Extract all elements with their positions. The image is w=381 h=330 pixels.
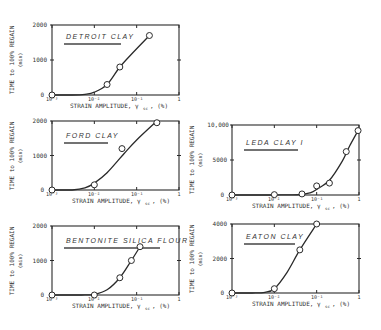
y-tick-label: 2000 (33, 117, 48, 124)
chart-title: EATON CLAY (246, 233, 304, 240)
data-point-marker (117, 64, 123, 70)
chart-title: LEDA CLAY I (246, 139, 304, 146)
svg-text:sc: sc (325, 304, 330, 309)
chart-title: BENTONITE SILICA FLOUR (66, 237, 188, 244)
y-tick-label: 2000 (213, 255, 228, 262)
y-axis-label: TIME to 100% REGAIN (min) (8, 25, 23, 94)
data-point-marker (355, 128, 361, 134)
data-point-marker (128, 258, 134, 264)
svg-text:STRAIN AMPLITUDE, γ: STRAIN AMPLITUDE, γ (72, 302, 141, 310)
y-tick-label: 0 (40, 291, 44, 298)
chart-ford-clay: TIME to 100% REGAIN (min) 2000 1000 0 10… (0, 96, 190, 206)
y-axis-label: TIME to 100% REGAIN (min) (8, 226, 23, 295)
data-point-marker (297, 247, 303, 253)
chart-title: FORD CLAY (66, 132, 119, 139)
svg-text:(min): (min) (17, 52, 23, 67)
svg-text:TIME to 100% REGAIN: TIME to 100% REGAIN (8, 25, 15, 94)
data-point-marker (91, 182, 97, 188)
chart-eaton-clay: TIME to 100% REGAIN (min) 4000 2000 0 10… (180, 199, 381, 309)
y-axis-label: TIME to 100% REGAIN (min) (8, 121, 23, 190)
x-tick-label: 1 (357, 294, 360, 300)
y-tick-label: 0 (40, 186, 44, 193)
panel-bentonite-silica-flour: TIME to 100% REGAIN (min) 2000 1000 0 10… (0, 201, 190, 311)
svg-text:(min): (min) (17, 253, 23, 268)
y-tick-label: 0 (220, 191, 224, 198)
data-point-marker (104, 82, 110, 88)
data-point-marker (49, 187, 55, 193)
x-axis-label: STRAIN AMPLITUDE, γ sc , (%) (72, 302, 170, 311)
data-point-marker (271, 192, 277, 198)
svg-text:, (%): , (%) (152, 302, 170, 309)
y-tick-label: 0 (220, 289, 224, 296)
y-tick-label: 10,000 (207, 121, 229, 128)
y-tick-label: 4000 (213, 220, 228, 227)
data-point-marker (154, 120, 160, 126)
data-point-marker (343, 149, 349, 155)
data-point-marker (271, 286, 277, 292)
fit-curve (52, 247, 140, 295)
panel-detroit-clay: TIME to 100% REGAIN (min) 2000 1000 0 10… (0, 0, 190, 110)
data-point-marker (229, 290, 235, 296)
chart-leda-clay-i: TIME to 100% REGAIN (min) 10,000 5000 0 … (180, 100, 381, 210)
data-point-marker (49, 292, 55, 298)
data-point-marker (314, 183, 320, 189)
svg-text:, (%): , (%) (332, 300, 350, 307)
y-tick-label: 1000 (33, 152, 48, 159)
data-point-marker (326, 180, 332, 186)
data-point-marker (137, 244, 143, 250)
data-point-marker (314, 221, 320, 227)
svg-text:TIME to 100% REGAIN: TIME to 100% REGAIN (188, 125, 195, 194)
data-point-marker (91, 292, 97, 298)
data-point-marker (229, 192, 235, 198)
svg-text:TIME to 100% REGAIN: TIME to 100% REGAIN (8, 226, 15, 295)
chart-title: DETROIT CLAY (66, 33, 134, 40)
y-tick-label: 1000 (33, 257, 48, 264)
data-point-marker (299, 191, 305, 197)
y-tick-label: 2000 (33, 222, 48, 229)
data-point-marker (119, 146, 125, 152)
y-axis-label: TIME to 100% REGAIN (min) (188, 125, 203, 194)
svg-text:STRAIN AMPLITUDE, γ: STRAIN AMPLITUDE, γ (252, 300, 321, 308)
svg-text:TIME to 100% REGAIN: TIME to 100% REGAIN (8, 121, 15, 190)
panel-leda-clay-i: TIME to 100% REGAIN (min) 10,000 5000 0 … (180, 100, 381, 210)
svg-text:sc: sc (145, 306, 150, 311)
y-tick-label: 2000 (33, 21, 48, 28)
svg-text:(min): (min) (197, 152, 203, 167)
data-point-marker (146, 33, 152, 39)
svg-text:TIME to 100% REGAIN: TIME to 100% REGAIN (188, 224, 195, 293)
x-axis-label: STRAIN AMPLITUDE, γ sc , (%) (252, 300, 350, 309)
chart-detroit-clay: TIME to 100% REGAIN (min) 2000 1000 0 10… (0, 0, 190, 110)
svg-text:(min): (min) (197, 251, 203, 266)
chart-bentonite-silica-flour: TIME to 100% REGAIN (min) 2000 1000 0 10… (0, 201, 190, 311)
y-tick-label: 5000 (213, 156, 228, 163)
panel-ford-clay: TIME to 100% REGAIN (min) 2000 1000 0 10… (0, 96, 190, 206)
axes-frame (230, 125, 361, 195)
data-point-marker (117, 275, 123, 281)
y-axis-label: TIME to 100% REGAIN (min) (188, 224, 203, 293)
y-tick-label: 1000 (33, 56, 48, 63)
svg-text:(min): (min) (17, 148, 23, 163)
panel-eaton-clay: TIME to 100% REGAIN (min) 4000 2000 0 10… (180, 199, 381, 309)
